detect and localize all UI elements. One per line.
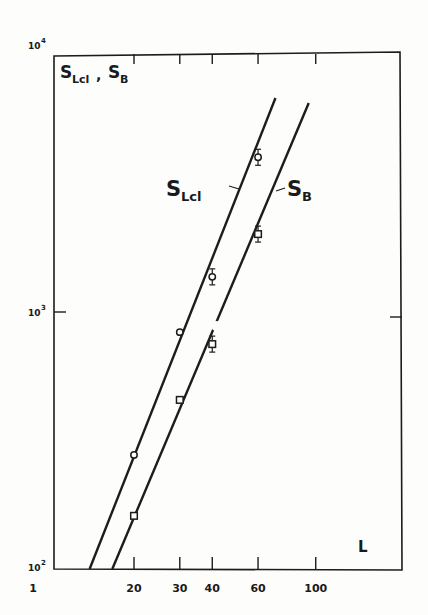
x-tick-label: 100: [304, 582, 327, 595]
y-axis-label-sub: Lcl: [72, 73, 89, 86]
y-tick-label: 10: [28, 308, 41, 318]
series-label-sb: S: [287, 177, 302, 201]
chart: 120304060100102103104LSLcl,SB SLclSB: [0, 0, 428, 615]
series-label-slcl-sub: Lcl: [181, 189, 201, 204]
square-marker: [255, 231, 262, 238]
x-tick-label: 40: [205, 582, 221, 595]
plot-border: [54, 52, 402, 570]
line-gap: [211, 321, 221, 331]
y-tick-exponent: 4: [41, 37, 46, 45]
y-axis-label-sep: ,: [96, 67, 101, 83]
y-axis-label: S: [60, 62, 72, 82]
y-tick-label: 10: [28, 563, 41, 573]
series-label-sb-sub: B: [302, 189, 312, 204]
series-label-slcl: S: [166, 177, 181, 201]
leader-arrow: [276, 188, 285, 191]
data-points: [131, 149, 262, 519]
y-tick-exponent: 2: [41, 559, 46, 567]
circle-marker: [131, 452, 137, 458]
fit-lines: [90, 98, 309, 569]
line-gap: [259, 180, 269, 190]
axis-ticks: [54, 54, 402, 569]
x-tick-label: 60: [250, 582, 266, 595]
x-tick-label: 20: [126, 582, 142, 595]
circle-marker: [177, 329, 183, 335]
plot-frame: [54, 52, 402, 570]
y-axis-label-sub: B: [120, 73, 128, 86]
y-tick-label: 10: [28, 41, 41, 51]
square-marker: [131, 513, 138, 520]
circle-marker: [209, 274, 215, 280]
x-tick-label: 30: [172, 582, 188, 595]
leader-arrow: [229, 186, 239, 189]
x-tick-label: 1: [29, 582, 37, 595]
square-marker: [209, 341, 216, 348]
x-axis-label: L: [358, 538, 368, 556]
square-marker: [176, 397, 183, 404]
y-axis-label: S: [108, 62, 120, 82]
circle-marker: [255, 154, 261, 160]
tick-labels: 120304060100102103104LSLcl,SB: [28, 37, 368, 595]
y-tick-exponent: 3: [41, 304, 46, 312]
